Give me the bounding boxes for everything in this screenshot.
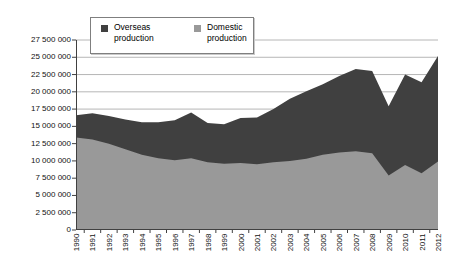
x-axis-label: 1998	[203, 234, 212, 270]
x-axis-label: 1996	[170, 234, 179, 270]
x-axis-label: 1995	[154, 234, 163, 270]
y-axis-label: 27 500 000	[6, 35, 71, 45]
y-axis-label: 17 500 000	[6, 104, 71, 114]
x-axis-label: 1992	[104, 234, 113, 270]
y-axis-label: 7 500 000	[6, 173, 71, 183]
stacked-area-chart: 02 500 0005 000 0007 500 00010 000 00012…	[0, 0, 456, 276]
legend-swatch-overseas	[101, 25, 108, 32]
x-axis-label: 2009	[384, 234, 393, 270]
legend-swatch-domestic	[194, 25, 201, 32]
y-axis-label: 20 000 000	[6, 87, 71, 97]
x-axis-label: 1997	[187, 234, 196, 270]
x-axis-label: 2001	[253, 234, 262, 270]
y-axis-label: 5 000 000	[6, 190, 71, 200]
x-axis-label: 1991	[88, 234, 97, 270]
legend-label-domestic: Domestic production	[207, 22, 269, 44]
y-axis-label: 0	[6, 225, 71, 235]
x-axis-label: 2011	[417, 234, 426, 270]
x-axis-label: 1993	[121, 234, 130, 270]
y-axis-label: 25 000 000	[6, 52, 71, 62]
y-axis-label: 12 500 000	[6, 139, 71, 149]
y-axis-label: 2 500 000	[6, 208, 71, 218]
plot-area	[70, 38, 444, 234]
x-axis-label: 1999	[220, 234, 229, 270]
x-axis-label: 2005	[318, 234, 327, 270]
legend: Overseas production Domestic production	[90, 17, 254, 54]
x-axis-label: 2002	[269, 234, 278, 270]
x-axis-label: 2000	[236, 234, 245, 270]
x-axis-label: 2003	[285, 234, 294, 270]
x-axis-label: 1994	[137, 234, 146, 270]
x-axis-label: 2008	[368, 234, 377, 270]
legend-label-overseas: Overseas production	[114, 22, 176, 44]
legend-item-overseas: Overseas production	[101, 22, 176, 44]
y-axis-label: 10 000 000	[6, 156, 71, 166]
y-axis-label: 22 500 000	[6, 70, 71, 80]
legend-item-domestic: Domestic production	[194, 22, 269, 44]
x-axis-label: 2007	[351, 234, 360, 270]
x-axis-label: 2004	[302, 234, 311, 270]
x-axis-label: 1990	[72, 234, 81, 270]
x-axis-label: 2006	[335, 234, 344, 270]
x-axis-label: 2010	[401, 234, 410, 270]
y-axis-label: 15 000 000	[6, 121, 71, 131]
x-axis-label: 2012	[434, 234, 443, 270]
